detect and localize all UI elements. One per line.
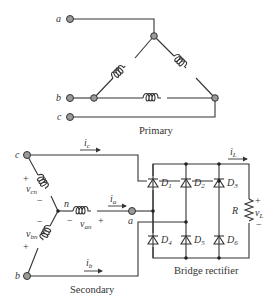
node-neutral [56,209,60,213]
van-plus: + [98,215,104,226]
caption-bridge-rectifier: Bridge rectifier [174,265,239,276]
label-ia: ia [110,193,117,206]
diode-d4 [147,233,159,247]
diode-d6 [213,233,225,247]
diode-d3 [213,176,225,190]
label-d2: D2 [193,177,205,190]
van-minus: − [67,215,73,226]
terminal-secondary-b [24,273,31,280]
terminal-secondary-a [129,208,136,215]
resistor-load [244,199,254,223]
primary-delta: a b c Primary [56,13,218,136]
vl-plus: + [255,195,261,206]
label-d5: D5 [193,234,205,247]
label-d4: D4 [160,234,172,247]
label-primary-c: c [57,111,62,122]
label-neutral: n [64,198,69,209]
diode-d2 [180,176,192,190]
inductor-primary-ac [172,53,189,70]
terminal-primary-c [67,114,74,121]
label-secondary-b: b [15,270,20,281]
terminal-primary-a [67,16,74,23]
diode-d1 [147,176,159,190]
label-van: van [80,218,92,231]
inductor-primary-ab [110,63,127,80]
label-secondary-a: a [128,215,133,226]
node-primary-left [91,95,98,102]
inductor-primary-bc [143,94,161,102]
vcn-minus: − [37,195,43,206]
label-d6: D6 [226,234,238,247]
diode-d5 [180,233,192,247]
label-secondary-c: c [15,149,20,160]
node-primary-right [212,95,219,102]
vl-minus: − [256,219,262,230]
label-d1: D1 [160,177,172,190]
label-primary-b: b [56,92,61,103]
bridge-rectifier: R + vL − iL D1 D2 D3 D4 D5 D6 Bridge rec… [147,146,263,276]
terminal-secondary-c [24,152,31,159]
inductor-secondary-an [73,207,91,215]
vbn-minus: − [37,216,43,227]
three-phase-rectifier-diagram: a b c Primary [0,0,278,298]
terminal-primary-b [67,95,74,102]
node-primary-top [151,33,158,40]
label-vbn: vbn [26,228,38,241]
caption-primary: Primary [139,125,174,136]
inductor-secondary-cn [35,173,49,191]
label-resistor: R [231,205,238,216]
label-ic: ic [84,137,91,150]
label-il: iL [230,146,237,159]
caption-secondary: Secondary [70,284,115,295]
vbn-plus: + [23,241,29,252]
label-vcn: vcn [26,183,38,196]
label-d3: D3 [226,177,238,190]
label-ib: ib [86,257,93,270]
label-primary-a: a [56,13,61,24]
